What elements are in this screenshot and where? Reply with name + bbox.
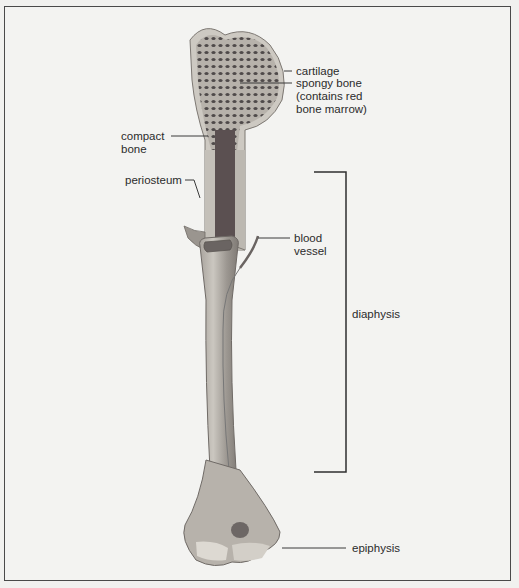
- proximal-bone-section: [184, 29, 284, 250]
- bone-diagram: [0, 0, 519, 588]
- leader-lines: [171, 71, 346, 548]
- label-compact-bone: compact bone: [121, 130, 164, 156]
- leader-periosteum: [185, 180, 200, 198]
- label-blood-vessel: blood vessel: [294, 232, 327, 258]
- distal-epiphysis: [184, 460, 280, 566]
- diaphysis-shaft: [200, 236, 240, 470]
- diaphysis-bracket: [314, 172, 346, 472]
- label-epiphysis: epiphysis: [352, 542, 400, 555]
- label-periosteum: periosteum: [125, 174, 182, 187]
- label-spongy-bone: spongy bone (contains red bone marrow): [296, 77, 367, 116]
- label-diaphysis: diaphysis: [352, 308, 400, 321]
